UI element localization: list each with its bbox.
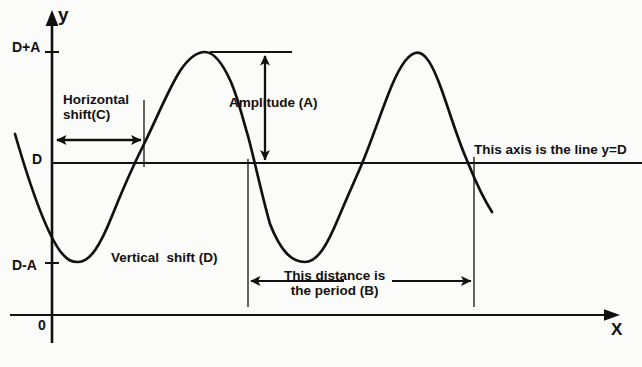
period-label: This distance is the period (B) bbox=[284, 268, 385, 298]
x-axis-label: X bbox=[611, 320, 622, 339]
horizontal-shift-label: Horizontal shift(C) bbox=[63, 92, 129, 122]
y-tick-label-d-minus-a: D-A bbox=[12, 258, 37, 274]
y-axis-arrowhead bbox=[46, 10, 59, 26]
sinusoid-curve bbox=[15, 52, 492, 262]
sinusoid-diagram: y X D+A D D-A 0 Horizontal shift(C) Ampl… bbox=[0, 0, 642, 367]
y-axis-label: y bbox=[58, 4, 69, 25]
amplitude-label: Amplitude (A) bbox=[229, 95, 318, 110]
origin-label: 0 bbox=[38, 318, 46, 334]
x-axis bbox=[10, 309, 620, 321]
diagram-canvas bbox=[0, 0, 642, 367]
y-tick-label-d-plus-a: D+A bbox=[12, 40, 40, 56]
midline-description-label: This axis is the line y=D bbox=[474, 142, 627, 157]
y-axis bbox=[46, 10, 59, 343]
vertical-shift-label: Vertical shift (D) bbox=[111, 250, 218, 265]
y-tick-label-d: D bbox=[32, 152, 42, 168]
